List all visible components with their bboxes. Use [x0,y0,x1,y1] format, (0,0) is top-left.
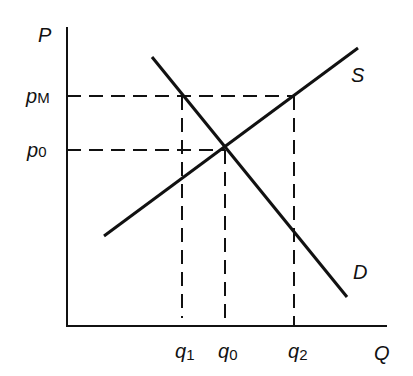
supply-label: S [351,64,365,86]
y-axis-label: P [38,24,52,46]
price-label-p0: p0 [26,139,46,161]
supply-demand-diagram: P Q pM p0 q1 q0 q2 S D [0,0,413,376]
x-axis-label: Q [374,342,390,364]
p0-base: p [26,139,38,161]
q1-sub: 1 [186,346,194,363]
q0-sub: 0 [229,346,237,363]
q2-base: q [288,340,299,362]
q0-base: q [218,340,229,362]
quantity-label-q0: q0 [218,340,237,363]
quantity-label-q2: q2 [288,340,307,363]
q1-base: q [175,340,186,362]
price-label-pm: pM [25,85,50,107]
pm-sub: M [37,89,50,106]
p0-sub: 0 [38,143,46,160]
pm-base: p [25,85,37,107]
quantity-label-q1: q1 [175,340,194,363]
demand-label: D [353,261,367,283]
supply-curve [104,48,358,236]
q2-sub: 2 [299,346,307,363]
